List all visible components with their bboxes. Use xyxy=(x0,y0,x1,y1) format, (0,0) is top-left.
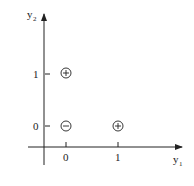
x-tick-label-0: 0 xyxy=(63,151,69,163)
x-axis-label-subscript: 1 xyxy=(179,160,183,168)
xor-diagram: 1 0 0 1 y 2 y 1 xyxy=(0,0,194,186)
x-tick-label-1: 1 xyxy=(115,151,121,163)
point-plus-1-0 xyxy=(113,121,123,131)
point-plus-0-1 xyxy=(61,68,71,78)
point-minus-0-0 xyxy=(61,121,71,131)
y-tick-label-0: 0 xyxy=(33,120,39,132)
y-tick-label-1: 1 xyxy=(33,68,39,80)
y-axis-label-subscript: 2 xyxy=(33,15,37,23)
